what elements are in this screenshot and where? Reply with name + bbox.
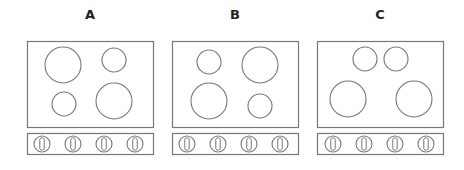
control-knob-icon bbox=[272, 136, 288, 152]
control-knob-icon bbox=[65, 136, 81, 152]
control-knob-icon bbox=[241, 136, 257, 152]
burner-small-bottom-left bbox=[52, 92, 76, 116]
diagram-canvas bbox=[0, 0, 464, 170]
burner-small-top-left bbox=[197, 50, 221, 74]
control-knob-icon bbox=[418, 136, 434, 152]
burner-large-bottom-right bbox=[396, 81, 432, 117]
control-knob-icon bbox=[210, 136, 226, 152]
control-knob-icon bbox=[356, 136, 372, 152]
control-knob-icon bbox=[387, 136, 403, 152]
control-knob-icon bbox=[96, 136, 112, 152]
knob-panel bbox=[173, 134, 299, 155]
cooktop-surface bbox=[173, 42, 299, 128]
cooktop-surface bbox=[28, 42, 154, 128]
control-knob-icon bbox=[127, 136, 143, 152]
burner-small-bottom-right bbox=[248, 94, 272, 118]
stove-option-c bbox=[318, 42, 444, 155]
burner-small-top-center-left bbox=[353, 47, 377, 71]
burner-small-top-center-right bbox=[384, 47, 408, 71]
burner-large-top-right bbox=[242, 47, 278, 83]
stove-option-a bbox=[28, 42, 154, 155]
control-knob-icon bbox=[325, 136, 341, 152]
burner-large-bottom-left bbox=[191, 83, 227, 119]
burner-large-top-left bbox=[45, 47, 81, 83]
control-knob-icon bbox=[179, 136, 195, 152]
burner-large-bottom-left bbox=[330, 81, 366, 117]
stove-option-b bbox=[173, 42, 299, 155]
burner-small-top-right bbox=[102, 48, 126, 72]
burner-large-bottom-right bbox=[96, 83, 132, 119]
knob-panel bbox=[28, 134, 154, 155]
control-knob-icon bbox=[34, 136, 50, 152]
